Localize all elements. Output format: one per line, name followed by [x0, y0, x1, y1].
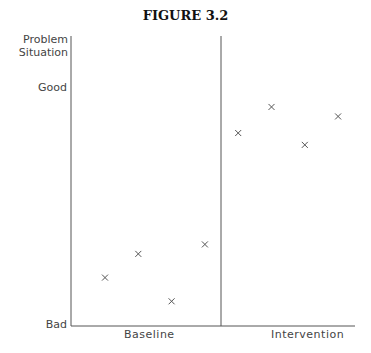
data-point-x-marker — [102, 275, 108, 281]
data-point-x-marker — [302, 142, 308, 148]
data-point-x-marker — [269, 104, 275, 110]
data-markers — [102, 104, 341, 304]
data-point-x-marker — [202, 241, 208, 247]
plot-area — [0, 0, 371, 353]
data-point-x-marker — [135, 251, 141, 257]
data-point-x-marker — [335, 113, 341, 119]
data-point-x-marker — [235, 130, 241, 136]
data-point-x-marker — [169, 298, 175, 304]
